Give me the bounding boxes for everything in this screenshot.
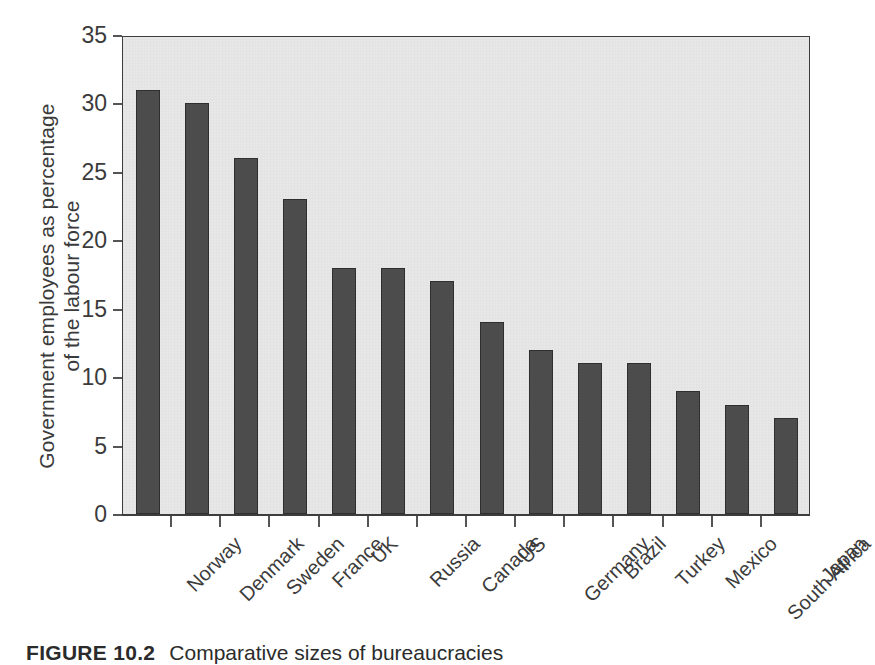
y-tick-label: 20 — [61, 229, 107, 252]
y-tick-mark — [113, 103, 122, 105]
bar — [234, 158, 258, 514]
bar — [774, 418, 798, 514]
x-tick-mark — [711, 516, 713, 527]
bar — [529, 350, 553, 514]
x-tick-label: Mexico — [722, 533, 781, 592]
figure-caption-label: FIGURE 10.2 — [26, 641, 155, 664]
bar — [185, 103, 209, 514]
x-tick-mark — [219, 516, 221, 527]
x-tick-mark — [318, 516, 320, 527]
y-axis-title-line-2: of the labour force — [60, 200, 85, 371]
x-tick-mark — [612, 516, 614, 527]
x-tick-mark — [465, 516, 467, 527]
y-tick-mark — [113, 172, 122, 174]
plot-area — [122, 36, 810, 515]
x-tick-mark — [367, 516, 369, 527]
y-tick-mark — [113, 309, 122, 311]
bar — [480, 322, 504, 514]
y-tick-label: 5 — [61, 435, 107, 458]
bar — [725, 405, 749, 514]
x-tick-label: Russia — [426, 533, 483, 590]
y-axis-title-line-1: Government employees as percentage — [35, 103, 60, 468]
bar — [332, 268, 356, 514]
y-tick-label: 10 — [61, 366, 107, 389]
x-tick-mark — [662, 516, 664, 527]
y-tick-mark — [113, 35, 122, 37]
figure-caption-text: Comparative sizes of bureaucracies — [169, 641, 503, 664]
bar — [381, 268, 405, 514]
x-tick-mark — [268, 516, 270, 527]
bar — [578, 363, 602, 514]
y-tick-mark — [113, 377, 122, 379]
bar — [136, 90, 160, 514]
x-tick-mark — [170, 516, 172, 527]
y-tick-label: 0 — [61, 503, 107, 526]
x-tick-label: Turkey — [672, 533, 729, 590]
y-tick-mark — [113, 240, 122, 242]
y-tick-label: 15 — [61, 298, 107, 321]
x-tick-mark — [760, 516, 762, 527]
x-tick-label: Brazil — [619, 533, 669, 583]
y-tick-label: 30 — [61, 92, 107, 115]
x-tick-mark — [563, 516, 565, 527]
y-tick-label: 35 — [61, 24, 107, 47]
bar — [676, 391, 700, 514]
y-tick-mark — [113, 514, 122, 516]
x-tick-mark — [514, 516, 516, 527]
y-tick-label: 25 — [61, 161, 107, 184]
x-tick-mark — [416, 516, 418, 527]
y-tick-mark — [113, 446, 122, 448]
bar — [627, 363, 651, 514]
bar — [283, 199, 307, 514]
bar — [430, 281, 454, 514]
x-tick-label: Norway — [182, 533, 244, 595]
figure-caption: FIGURE 10.2Comparative sizes of bureaucr… — [26, 641, 826, 665]
